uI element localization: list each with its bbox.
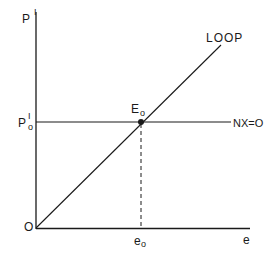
equilibrium-label: E o xyxy=(131,103,139,115)
y-tick-label-text: P xyxy=(18,116,26,130)
loop-line xyxy=(36,45,221,228)
y-axis-label-text: P xyxy=(22,12,30,26)
origin-label: O xyxy=(24,221,33,233)
x-tick-label-text: e xyxy=(134,234,141,248)
equilibrium-label-text: E xyxy=(131,102,139,116)
y-tick-label-sub: o xyxy=(28,123,33,132)
x-tick-label-sub: o xyxy=(141,240,146,249)
loop-curve-label: LOOP xyxy=(206,32,243,44)
y-axis-label-sup: I xyxy=(34,8,37,17)
equilibrium-label-sub: o xyxy=(140,109,145,118)
x-tick-label-e0: e o xyxy=(134,235,141,247)
y-tick-label-sup: I xyxy=(28,112,31,121)
nx-curve-label: NX=O xyxy=(233,117,263,129)
equilibrium-point-e0 xyxy=(138,119,144,125)
x-axis-label: e xyxy=(243,234,250,246)
y-axis-label: P I xyxy=(22,13,30,25)
y-tick-label-p0: P I o xyxy=(18,117,26,129)
